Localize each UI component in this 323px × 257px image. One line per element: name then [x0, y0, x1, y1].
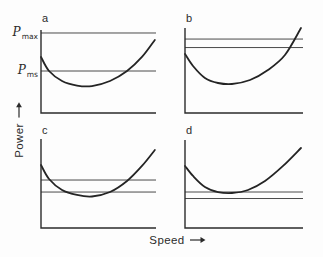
pms-subscript: ms — [27, 70, 38, 79]
power-speed-figure: a b c d Pmax Pms Power Speed — [0, 0, 323, 257]
panel-a-power-required-curve — [41, 40, 155, 86]
pmax-subscript: max — [22, 32, 38, 41]
panel-d-label: d — [186, 125, 192, 136]
pmax-label: Pmax — [0, 25, 38, 44]
pms-symbol: P — [18, 63, 26, 77]
pms-label: Pms — [0, 63, 38, 82]
pmax-symbol: P — [13, 25, 21, 39]
panel-b-axes — [185, 28, 303, 113]
panel-b-power-required-curve — [185, 28, 301, 84]
power-axis-text: Power — [13, 123, 25, 158]
speed-axis-text: Speed — [149, 234, 184, 246]
right-arrow-icon — [15, 102, 23, 118]
right-arrow-icon — [190, 236, 206, 244]
panel-d-power-required-curve — [185, 148, 301, 193]
panel-a-label: a — [42, 13, 48, 24]
panel-c-axes — [41, 139, 156, 228]
panel-c-label: c — [42, 125, 48, 136]
speed-axis-label: Speed — [120, 234, 235, 246]
panel-d-axes — [185, 140, 303, 228]
chart-canvas — [0, 0, 323, 257]
power-axis-label: Power — [13, 102, 25, 158]
panel-c-power-required-curve — [41, 150, 155, 197]
panel-b-label: b — [186, 13, 192, 24]
